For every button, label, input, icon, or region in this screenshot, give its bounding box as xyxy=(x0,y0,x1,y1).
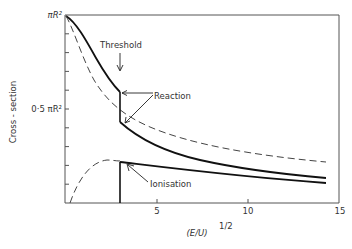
y-tick-label-half: 0·5 πR² xyxy=(31,104,62,114)
x-axis-label: (E/U) xyxy=(186,228,207,238)
annotation-threshold: Threshold xyxy=(99,40,142,50)
x-tick-label-15: 15 xyxy=(335,206,346,216)
y-ticks xyxy=(65,34,69,184)
x-ticks xyxy=(157,199,248,203)
y-tick-label-max: πR² xyxy=(48,10,63,20)
x-axis-label-exponent: 1/2 xyxy=(219,221,233,231)
ionisation-dashed-curve xyxy=(70,160,120,203)
ionisation-arrow xyxy=(127,164,148,182)
x-tick-label-10: 10 xyxy=(243,206,254,216)
annotation-ionisation: Ionisation xyxy=(150,179,191,189)
chart: 5 10 15 πR² 0·5 πR² Cross - section (E/U… xyxy=(0,0,352,249)
reaction-solid-curve xyxy=(120,122,326,178)
y-axis-label: Cross - section xyxy=(8,81,18,143)
dashed-upper-curve xyxy=(66,16,326,162)
reaction-arrows xyxy=(122,91,153,124)
total-solid-curve xyxy=(66,16,120,92)
x-tick-label-5: 5 xyxy=(154,206,159,216)
threshold-arrow xyxy=(117,53,123,71)
annotation-reaction: Reaction xyxy=(154,91,191,101)
